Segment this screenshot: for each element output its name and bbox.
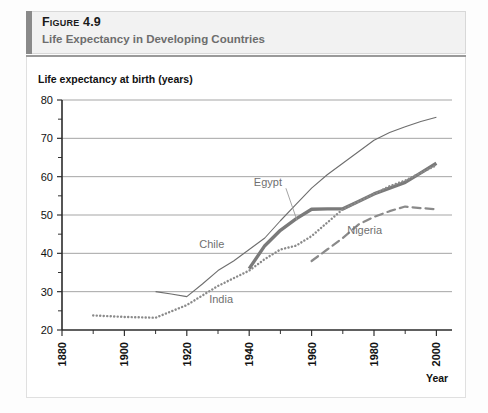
data-series [93,117,436,317]
y-tick-label: 30 [41,286,53,298]
x-tick-label: 1960 [306,342,318,366]
x-tick-label: 1900 [118,342,130,366]
figure-root: Figure 4.9 Life Expectancy in Developing… [0,0,488,413]
x-tick-label: 2000 [430,342,442,366]
y-tick-label: 20 [41,324,53,336]
y-tick-label: 60 [41,171,53,183]
series-label-chile: Chile [199,238,224,250]
series-label-india: India [209,293,234,305]
y-tick-label: 50 [41,209,53,221]
x-tick-label: 1880 [56,342,68,366]
x-axis-ticks: 1880190019201940196019802000 [56,330,442,366]
line-chart: 20304050607080 1880190019201940196019802… [0,0,488,413]
gridlines [62,100,452,292]
series-line-chile [156,117,437,296]
x-tick-label: 1940 [243,342,255,366]
y-axis-ticks: 20304050607080 [41,94,62,336]
x-tick-label: 1920 [181,342,193,366]
series-label-egypt: Egypt [254,176,282,188]
series-label-nigeria: Nigeria [347,224,383,236]
y-tick-label: 80 [41,94,53,106]
series-labels: ChileEgyptIndiaNigeria [199,176,383,305]
y-tick-label: 40 [41,247,53,259]
x-tick-label: 1980 [368,342,380,366]
y-tick-label: 70 [41,132,53,144]
